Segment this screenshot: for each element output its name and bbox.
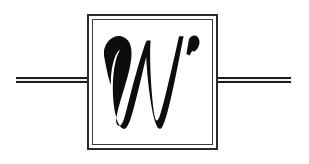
emblem-canvas [0,0,309,164]
emblem-inner-frame [92,19,213,145]
left-connector-rule [16,77,88,83]
right-connector-rule [217,77,291,83]
letter-w-icon [101,35,205,129]
emblem-outer-frame [87,14,218,150]
letter-w-glyph [93,20,212,144]
